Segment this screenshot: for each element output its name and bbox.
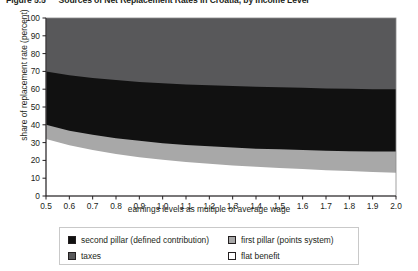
y-axis-tick-label: 0 — [35, 191, 40, 201]
y-axis-tick-label: 60 — [31, 84, 41, 94]
legend-column-left: second pillar (defined contribution) tax… — [68, 233, 209, 265]
y-axis-tick-label: 40 — [31, 120, 41, 130]
y-axis-tick-label: 80 — [31, 49, 41, 59]
legend-item-flat-benefit: flat benefit — [228, 249, 334, 263]
y-axis-tick-label: 30 — [31, 138, 41, 148]
legend-swatch-second-pillar — [68, 236, 76, 244]
x-axis-label: earnings levels as multiple of average w… — [0, 204, 418, 214]
legend-column-right: first pillar (points system) flat benefi… — [228, 233, 334, 265]
y-axis-label: share of replacement rate (percent) — [19, 0, 29, 165]
legend-swatch-first-pillar — [228, 236, 236, 244]
y-axis-tick-label: 20 — [31, 155, 41, 165]
legend-swatch-taxes — [68, 252, 76, 260]
legend-item-first-pillar: first pillar (points system) — [228, 233, 334, 247]
y-axis-tick-label: 70 — [31, 66, 41, 76]
legend-item-taxes: taxes — [68, 249, 209, 263]
legend-label-flat-benefit: flat benefit — [241, 252, 280, 260]
y-axis-tick-label: 10 — [31, 173, 41, 183]
legend-swatch-flat-benefit — [228, 252, 236, 260]
legend-label-taxes: taxes — [81, 252, 101, 260]
chart-plot-area: 01020304050607080901000.50.60.70.80.91.0… — [0, 0, 418, 215]
legend-item-second-pillar: second pillar (defined contribution) — [68, 233, 209, 247]
y-axis-tick-label: 50 — [31, 102, 41, 112]
stacked-area-chart: 01020304050607080901000.50.60.70.80.91.0… — [0, 0, 418, 215]
legend-label-second-pillar: second pillar (defined contribution) — [81, 236, 209, 244]
y-axis-tick-label: 90 — [31, 31, 41, 41]
legend-label-first-pillar: first pillar (points system) — [241, 236, 334, 244]
chart-legend: second pillar (defined contribution) tax… — [59, 227, 359, 265]
